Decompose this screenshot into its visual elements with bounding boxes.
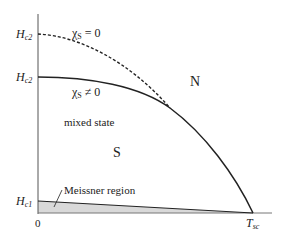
mixed-state-label: mixed state <box>64 116 115 128</box>
chi-zero-label: χS = 0 <box>71 26 101 41</box>
hc1-label: Hc1 <box>15 194 32 209</box>
origin-label: 0 <box>35 217 41 229</box>
superconducting-region-label: S <box>113 145 121 160</box>
chi-nonzero-label: χS ≠ 0 <box>71 85 100 100</box>
hc2-lower-label: Hc2 <box>15 70 32 85</box>
normal-region-label: N <box>190 74 200 89</box>
meissner-region-label: Meissner region <box>64 184 136 196</box>
phase-diagram: Hc2 Hc2 Hc1 0 Tsc χS = 0 χS ≠ 0 N mixed … <box>0 0 286 237</box>
tsc-label: Tsc <box>246 216 260 231</box>
hc2-upper-label: Hc2 <box>15 27 32 42</box>
